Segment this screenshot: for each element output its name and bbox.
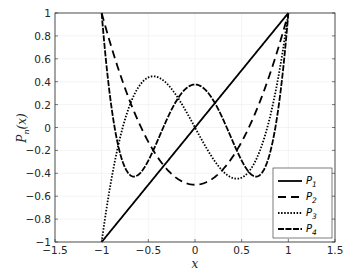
y-tick-label: −0.2 (26, 144, 52, 156)
y-axis-label-arg: (x) (15, 113, 29, 129)
y-tick-label: 0.6 (34, 53, 51, 65)
y-axis-label: Pn(x) (15, 113, 31, 144)
y-tick-label: 0.2 (34, 99, 51, 111)
x-tick-label: −1 (94, 244, 109, 256)
x-tick-label: 1.5 (327, 244, 344, 256)
y-tick-label: 1 (44, 7, 51, 19)
y-tick-label: 0.4 (34, 76, 51, 88)
legendre-chart: −1.5−1−0.500.511.5 10.80.60.40.20−0.2−0.… (0, 0, 353, 276)
x-tick-label: 0 (192, 244, 199, 256)
y-tick-label: −0.8 (26, 213, 52, 225)
y-tick-label: −1 (36, 236, 51, 248)
x-tick-label: 1 (285, 244, 292, 256)
x-axis-ticks: −1.5−1−0.500.511.5 (42, 239, 343, 256)
legend-box (273, 168, 332, 238)
y-tick-label: 0.8 (34, 30, 51, 42)
y-tick-label: −0.4 (26, 167, 52, 179)
x-tick-label: −0.5 (136, 244, 162, 256)
y-tick-label: 0 (44, 122, 51, 134)
legend: P1P2P3P4 (273, 168, 332, 238)
x-axis-label: x (192, 257, 199, 271)
y-tick-label: −0.6 (26, 190, 52, 202)
x-tick-label: 0.5 (233, 244, 250, 256)
